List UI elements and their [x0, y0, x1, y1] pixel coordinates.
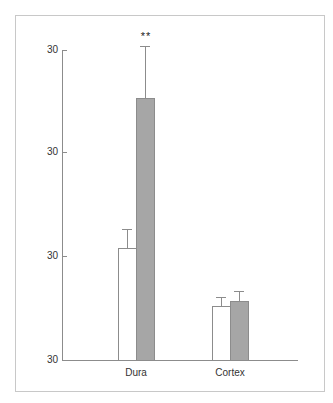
error-cap: [216, 297, 226, 298]
bar-dura-control: [118, 248, 137, 361]
y-tick: [62, 152, 67, 153]
y-tick-label: 30: [30, 354, 58, 366]
error-cap: [140, 46, 150, 47]
error-cap: [122, 229, 132, 230]
x-axis: [62, 360, 298, 361]
error-cap: [234, 291, 244, 292]
error-bar: [221, 297, 222, 306]
y-tick-label: 30: [30, 250, 58, 262]
y-axis: [62, 50, 63, 361]
bar-dura-treated: [136, 98, 155, 361]
significance-marker: **: [131, 30, 161, 42]
y-tick: [62, 256, 67, 257]
category-label-dura: Dura: [106, 367, 166, 378]
error-bar: [239, 291, 240, 301]
y-tick: [62, 50, 67, 51]
bar-cortex-control: [212, 306, 231, 361]
bar-cortex-treated: [230, 301, 249, 361]
category-label-cortex: Cortex: [200, 367, 260, 378]
y-tick-label: 30: [30, 44, 58, 56]
error-bar: [145, 46, 146, 98]
error-bar: [127, 229, 128, 248]
y-tick-label: 30: [30, 146, 58, 158]
